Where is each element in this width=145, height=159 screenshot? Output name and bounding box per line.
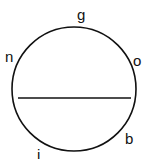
label-lower-right: b [125, 130, 133, 147]
label-bottom-left: i [37, 146, 40, 159]
circle-diagram: g n o b i [0, 0, 145, 159]
label-top: g [77, 6, 85, 23]
label-upper-right: o [133, 52, 141, 69]
label-upper-left: n [5, 48, 13, 65]
circle [12, 27, 136, 151]
